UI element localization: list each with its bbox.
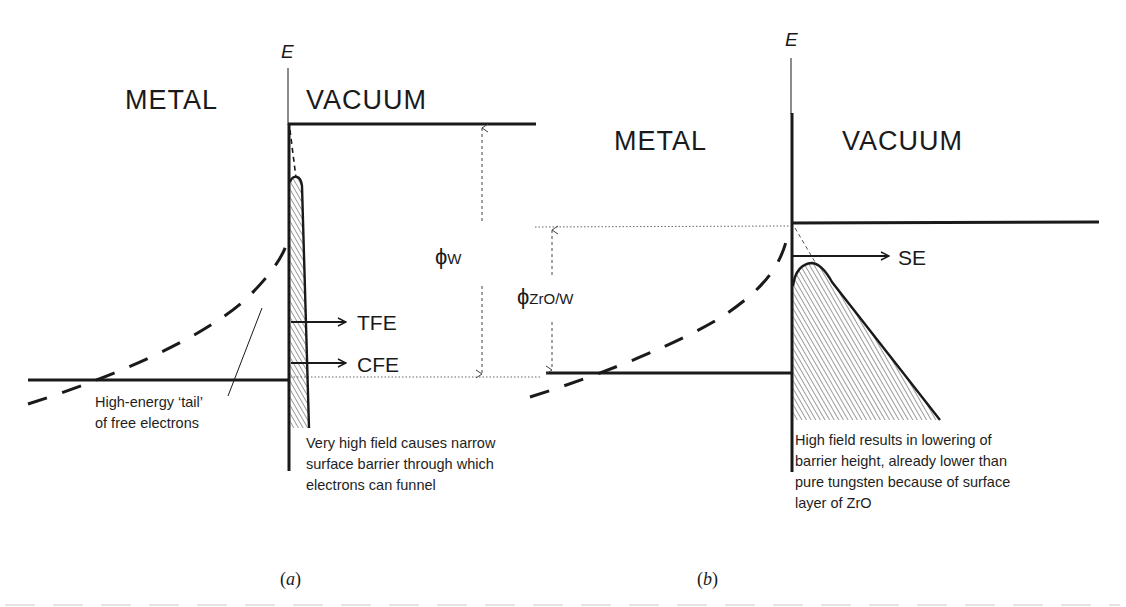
panel-tag-b: (b) <box>697 570 718 588</box>
vacuum-label-b: VACUUM <box>842 128 963 155</box>
image-potential-dashed-a <box>290 130 296 178</box>
panel-b <box>530 58 1099 472</box>
tail-leader-line <box>228 308 262 396</box>
vacuum-level-b <box>792 222 1099 223</box>
phi-w-label: ϕW <box>435 246 462 268</box>
metal-label-a: METAL <box>125 87 218 114</box>
energy-axis-label-a: E <box>281 42 294 61</box>
schottky-barrier-b <box>793 263 940 420</box>
tfe-label: TFE <box>357 312 397 333</box>
energy-axis-label-b: E <box>785 30 798 49</box>
se-label: SE <box>898 247 926 268</box>
tail-annotation: High-energy ‘tail’ of free electrons <box>95 392 275 434</box>
barrier-annotation-b: High field results in lowering of barrie… <box>795 430 1020 514</box>
barrier-dotted-b <box>535 226 791 227</box>
energy-band-figure: E METAL VACUUM ϕW TFE CFE High-energy ‘t… <box>0 0 1126 607</box>
phi-zro-w-label: ϕZrO/W <box>517 286 573 308</box>
panel-tag-a: (a) <box>280 570 301 588</box>
barrier-annotation-a: Very high field causes narrow surface ba… <box>306 433 536 496</box>
vacuum-label-a: VACUUM <box>306 87 427 114</box>
metal-label-b: METAL <box>614 128 707 155</box>
cfe-label: CFE <box>357 354 399 375</box>
